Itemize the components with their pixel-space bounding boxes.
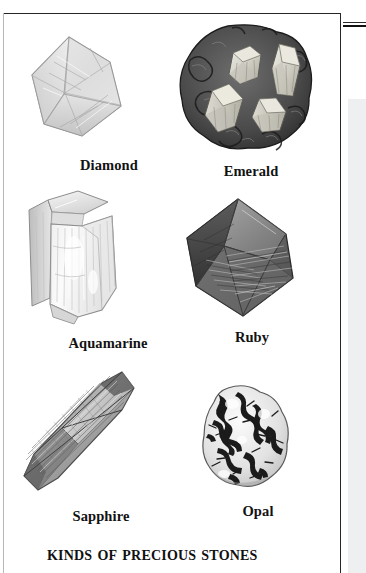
specimen-emerald: Emerald [176,22,326,179]
right-margin-panel [348,99,366,573]
specimen-label-sapphire: Sapphire [18,509,184,524]
specimen-label-opal: Opal [194,504,322,519]
aquamarine-crystal-icon [22,186,194,326]
specimen-diamond: Diamond [24,32,194,173]
specimen-ruby: Ruby [180,194,324,345]
specimen-sapphire: Sapphire [18,366,184,524]
diamond-crystal-icon [24,32,194,144]
sapphire-crystal-icon [18,366,184,499]
running-head-rule-thick [343,25,366,27]
specimen-label-emerald: Emerald [176,164,326,179]
specimen-opal: Opal [194,382,322,519]
specimen-label-diamond: Diamond [24,158,194,173]
figure-title: Kinds of Precious Stones [47,543,258,565]
opal-nodule-icon [194,382,322,495]
running-head-rule-thin [343,22,366,23]
emerald-in-matrix-icon [176,22,326,155]
specimen-label-aquamarine: Aquamarine [22,336,194,351]
specimen-grid: Diamond [4,14,340,532]
ruby-crystal-icon [180,194,324,322]
specimen-aquamarine: Aquamarine [22,186,194,351]
document-page: Diamond [0,0,366,573]
running-head-rule [343,22,366,28]
specimen-label-ruby: Ruby [180,330,324,345]
